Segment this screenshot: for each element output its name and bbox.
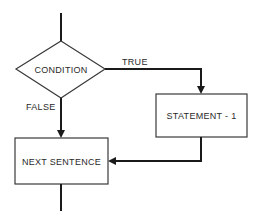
next-sentence-node: NEXT SENTENCE (15, 138, 108, 184)
false-edge-label: FALSE (26, 102, 56, 112)
next-sentence-label: NEXT SENTENCE (22, 157, 101, 167)
false-edge: FALSE (26, 98, 61, 136)
flowchart-diagram: CONDITION TRUE FALSE STATEMENT - 1 NEXT … (0, 0, 261, 224)
condition-label: CONDITION (34, 65, 87, 75)
statement-to-next-edge (110, 137, 201, 161)
statement1-node: STATEMENT - 1 (156, 94, 247, 137)
true-edge: TRUE (105, 57, 201, 92)
true-edge-label: TRUE (122, 57, 148, 67)
true-edge-line (105, 69, 201, 92)
condition-node: CONDITION (16, 41, 105, 98)
statement1-label: STATEMENT - 1 (167, 111, 237, 121)
